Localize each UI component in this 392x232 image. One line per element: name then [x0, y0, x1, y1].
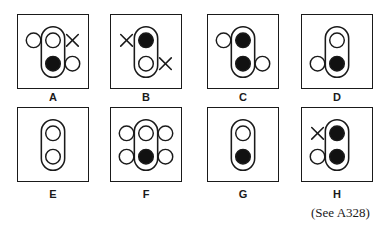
side-circle-right-top	[158, 126, 173, 141]
cross-icon-left-top	[312, 127, 324, 139]
side-circle-right-bottom	[255, 56, 270, 71]
empty-circle-top	[236, 126, 251, 141]
panel-label-d: D	[301, 91, 373, 103]
panel-c	[207, 14, 279, 89]
filled-circle-top	[236, 33, 251, 48]
side-circle-right-bottom	[158, 149, 173, 164]
panel-f	[110, 107, 182, 182]
figure-caption: (See A328)	[311, 205, 370, 221]
panel-label-f: F	[110, 188, 182, 200]
side-circle-left-bottom	[310, 149, 325, 164]
panel-label-c: C	[207, 91, 279, 103]
side-circle-right-bottom	[65, 56, 80, 71]
panel-d	[301, 14, 373, 89]
cross-icon-right-bottom	[160, 58, 172, 70]
empty-circle-bottom	[46, 149, 61, 164]
side-circle-left-top	[26, 33, 41, 48]
filled-circle-bottom	[330, 149, 345, 164]
side-circle-left-bottom	[310, 56, 325, 71]
panel-label-a: A	[17, 91, 89, 103]
filled-circle-top	[139, 33, 154, 48]
pill-outline	[41, 120, 64, 171]
panel-label-g: G	[207, 188, 279, 200]
panel-label-b: B	[110, 91, 182, 103]
side-circle-left-top	[119, 126, 134, 141]
panel-e	[17, 107, 89, 182]
filled-circle-top	[330, 126, 345, 141]
panel-h	[301, 107, 373, 182]
cross-icon-right-top	[67, 34, 79, 46]
panel-label-e: E	[17, 188, 89, 200]
panel-b	[110, 14, 182, 89]
cross-icon-left-top	[121, 34, 133, 46]
empty-circle-top	[139, 126, 154, 141]
filled-circle-bottom	[330, 56, 345, 71]
filled-circle-bottom	[139, 149, 154, 164]
empty-circle-top	[330, 33, 345, 48]
filled-circle-bottom	[46, 56, 61, 71]
filled-circle-bottom	[236, 149, 251, 164]
empty-circle-top	[46, 33, 61, 48]
empty-circle-top	[46, 126, 61, 141]
side-circle-left-bottom	[119, 149, 134, 164]
panel-g	[207, 107, 279, 182]
panel-a	[17, 14, 89, 89]
side-circle-left-top	[216, 33, 231, 48]
filled-circle-bottom	[236, 56, 251, 71]
empty-circle-bottom	[139, 56, 154, 71]
panel-label-h: H	[301, 188, 373, 200]
